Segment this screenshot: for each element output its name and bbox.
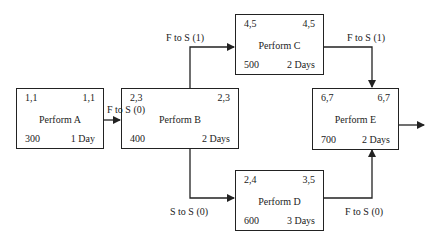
- node-b-duration: 2 Days: [202, 133, 230, 144]
- node-c-title: Perform C: [236, 40, 323, 51]
- node-c-late: 4,5: [303, 18, 316, 29]
- node-d-cost: 600: [244, 215, 259, 226]
- node-perform-b: 2,3 2,3 Perform B 400 2 Days: [121, 88, 239, 149]
- node-b-late: 2,3: [218, 92, 231, 103]
- node-c-early: 4,5: [244, 18, 257, 29]
- label-b-to-c: F to S (1): [166, 32, 204, 43]
- node-a-early: 1,1: [25, 92, 38, 103]
- node-e-title: Perform E: [313, 114, 398, 125]
- node-c-cost: 500: [244, 59, 259, 70]
- link-d-to-e: [323, 150, 372, 198]
- node-perform-d: 2,4 3,5 Perform D 600 3 Days: [235, 170, 324, 231]
- node-d-title: Perform D: [236, 196, 323, 207]
- node-perform-e: 6,7 6,7 Perform E 700 2 Days: [312, 88, 399, 150]
- link-c-to-e: [323, 47, 372, 87]
- link-b-to-d: [190, 148, 234, 198]
- node-d-late: 3,5: [303, 174, 316, 185]
- label-d-to-e: F to S (0): [345, 206, 383, 217]
- node-a-late: 1,1: [83, 92, 96, 103]
- node-e-late: 6,7: [378, 92, 391, 103]
- node-e-early: 6,7: [321, 92, 334, 103]
- label-b-to-d: S to S (0): [170, 206, 208, 217]
- node-c-duration: 2 Days: [287, 59, 315, 70]
- node-b-cost: 400: [130, 133, 145, 144]
- label-c-to-e: F to S (1): [347, 32, 385, 43]
- link-b-to-c: [190, 47, 234, 88]
- node-b-title: Perform B: [122, 114, 238, 125]
- node-e-cost: 700: [321, 134, 336, 145]
- node-a-title: Perform A: [17, 114, 103, 125]
- node-a-cost: 300: [25, 133, 40, 144]
- node-e-duration: 2 Days: [362, 134, 390, 145]
- node-d-duration: 3 Days: [287, 215, 315, 226]
- node-perform-c: 4,5 4,5 Perform C 500 2 Days: [235, 14, 324, 75]
- node-a-duration: 1 Day: [71, 133, 95, 144]
- node-perform-a: 1,1 1,1 Perform A 300 1 Day: [16, 88, 104, 149]
- node-d-early: 2,4: [244, 174, 257, 185]
- label-a-to-b: F to S (0): [107, 104, 145, 115]
- node-b-early: 2,3: [130, 92, 143, 103]
